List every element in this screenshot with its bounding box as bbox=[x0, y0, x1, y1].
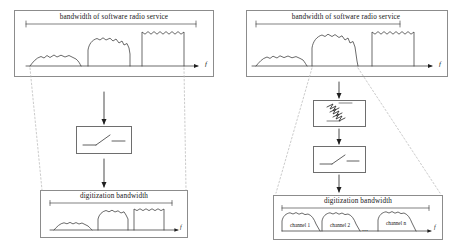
left-bottom-signal-high bbox=[134, 209, 164, 230]
left-top-span-bar bbox=[26, 21, 196, 27]
channel-n-envelope bbox=[378, 212, 416, 231]
vector-layer bbox=[0, 0, 461, 249]
left-projection-left bbox=[30, 68, 42, 190]
left-projection-right bbox=[184, 68, 186, 190]
left-top-signal-high bbox=[142, 32, 184, 66]
left-top-signal-mid bbox=[88, 38, 130, 66]
right-top-signal-low bbox=[256, 56, 307, 66]
left-bottom-signal-mid bbox=[98, 210, 128, 230]
left-top-signal-low bbox=[30, 55, 81, 66]
right-top-signal-mid bbox=[312, 34, 358, 66]
right-projection-right bbox=[358, 68, 440, 193]
right-adc-ramp-icon bbox=[320, 155, 359, 164]
channel-1-envelope bbox=[282, 213, 320, 231]
right-filter-waves-icon bbox=[327, 103, 352, 121]
right-bottom-span-bar bbox=[282, 206, 429, 211]
right-top-span-bar bbox=[256, 21, 400, 27]
left-bottom-signal-low bbox=[54, 222, 92, 230]
right-top-signal-high bbox=[372, 32, 414, 66]
right-projection-left bbox=[276, 68, 312, 193]
figure-root: bandwidth of software radio service f di… bbox=[0, 0, 461, 249]
channel-2-envelope bbox=[322, 213, 360, 231]
left-bottom-span-bar bbox=[50, 201, 172, 206]
left-adc-ramp-icon bbox=[83, 135, 125, 145]
